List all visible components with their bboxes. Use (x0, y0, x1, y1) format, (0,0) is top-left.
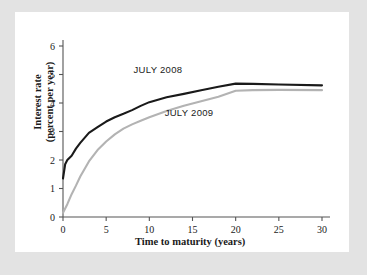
y-tick-label-0: 0 (50, 212, 55, 223)
series-group (63, 84, 322, 213)
y-tick-label-5: 5 (50, 69, 55, 80)
yield-curve-plot: 0123456051015202530 JULY 2008JULY 2009 (15, 12, 349, 252)
figure-background: Interest rate (percent per year) Time to… (0, 0, 367, 275)
y-tick-label-6: 6 (50, 41, 55, 52)
y-tick-label-4: 4 (50, 98, 55, 109)
y-tick-label-2: 2 (50, 155, 55, 166)
axes-group: 0123456051015202530 (50, 40, 330, 235)
series-line-0 (63, 84, 322, 179)
x-tick-label-30: 30 (317, 224, 327, 235)
x-tick-label-20: 20 (231, 224, 241, 235)
y-tick-label-1: 1 (50, 183, 55, 194)
series-annotation-0: JULY 2008 (134, 64, 183, 75)
series-annotation-1: JULY 2009 (165, 107, 214, 118)
chart-panel: Interest rate (percent per year) Time to… (15, 12, 349, 252)
x-tick-label-25: 25 (274, 224, 284, 235)
x-tick-label-0: 0 (61, 224, 66, 235)
x-tick-label-15: 15 (188, 224, 198, 235)
x-tick-label-10: 10 (144, 224, 154, 235)
y-tick-label-3: 3 (50, 126, 55, 137)
x-tick-label-5: 5 (104, 224, 109, 235)
